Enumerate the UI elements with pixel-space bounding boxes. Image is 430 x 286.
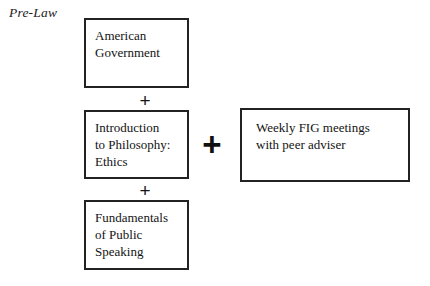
node-line: to Philosophy:: [95, 136, 178, 153]
diagram-canvas: Pre-Law American Government + Introducti…: [0, 0, 430, 286]
node-line: Ethics: [95, 153, 178, 170]
plus-connector-icon: +: [134, 181, 156, 200]
node-intro-philosophy: Introduction to Philosophy: Ethics: [84, 110, 189, 179]
node-line: Weekly FIG meetings: [256, 119, 408, 136]
node-line: American: [95, 27, 178, 44]
node-line: Fundamentals: [95, 209, 178, 226]
node-line: Government: [95, 44, 178, 61]
node-weekly-fig-meetings: Weekly FIG meetings with peer adviser: [240, 108, 410, 182]
node-line: with peer adviser: [256, 136, 408, 153]
plus-connector-large-icon: +: [198, 130, 226, 160]
node-line: of Public: [95, 226, 178, 243]
track-title: Pre-Law: [9, 5, 57, 21]
node-american-government: American Government: [84, 18, 189, 88]
node-line: Introduction: [95, 119, 178, 136]
node-fundamentals-speaking: Fundamentals of Public Speaking: [84, 200, 189, 270]
plus-connector-icon: +: [134, 91, 156, 110]
node-line: Speaking: [95, 243, 178, 260]
